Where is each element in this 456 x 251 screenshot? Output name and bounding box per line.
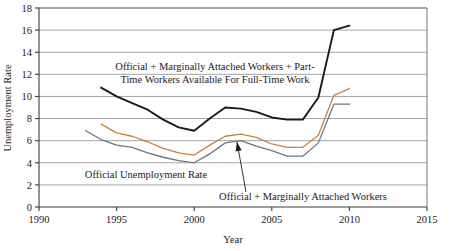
x-axis-title: Year <box>223 234 243 245</box>
unemployment-rate-chart: 024681012141618 199019952000200520102015… <box>0 0 456 251</box>
x-tick-label-1995: 1995 <box>106 214 127 225</box>
x-axis-ticks: 199019952000200520102015 <box>29 207 438 225</box>
y-tick-label-4: 4 <box>27 158 33 169</box>
y-tick-label-12: 12 <box>22 69 33 80</box>
y-tick-label-16: 16 <box>22 25 33 36</box>
y-tick-label-18: 18 <box>22 3 33 14</box>
y-tick-label-6: 6 <box>27 135 32 146</box>
x-tick-label-2010: 2010 <box>339 214 360 225</box>
annotation-marginally-attached-line-0: Official + Marginally Attached Workers <box>219 191 387 202</box>
x-tick-label-2000: 2000 <box>184 214 205 225</box>
x-tick-label-2005: 2005 <box>261 214 282 225</box>
y-axis-title: Unemployment Rate <box>2 64 13 152</box>
annotation-official-line-0: Official Unemployment Rate <box>85 169 208 180</box>
annotation-u6-line-0: Official + Marginally Attached Workers +… <box>115 61 315 72</box>
y-tick-label-2: 2 <box>27 180 32 191</box>
y-axis-ticks: 024681012141618 <box>22 3 40 213</box>
x-tick-label-1990: 1990 <box>29 214 50 225</box>
annotation-u6-line-1: Time Workers Available For Full-Time Wor… <box>120 74 310 85</box>
y-tick-label-10: 10 <box>22 91 33 102</box>
x-tick-label-2015: 2015 <box>417 214 438 225</box>
y-tick-label-0: 0 <box>27 202 32 213</box>
chart-canvas: 024681012141618 199019952000200520102015… <box>0 0 456 251</box>
y-tick-label-14: 14 <box>22 47 33 58</box>
y-tick-label-8: 8 <box>27 113 32 124</box>
